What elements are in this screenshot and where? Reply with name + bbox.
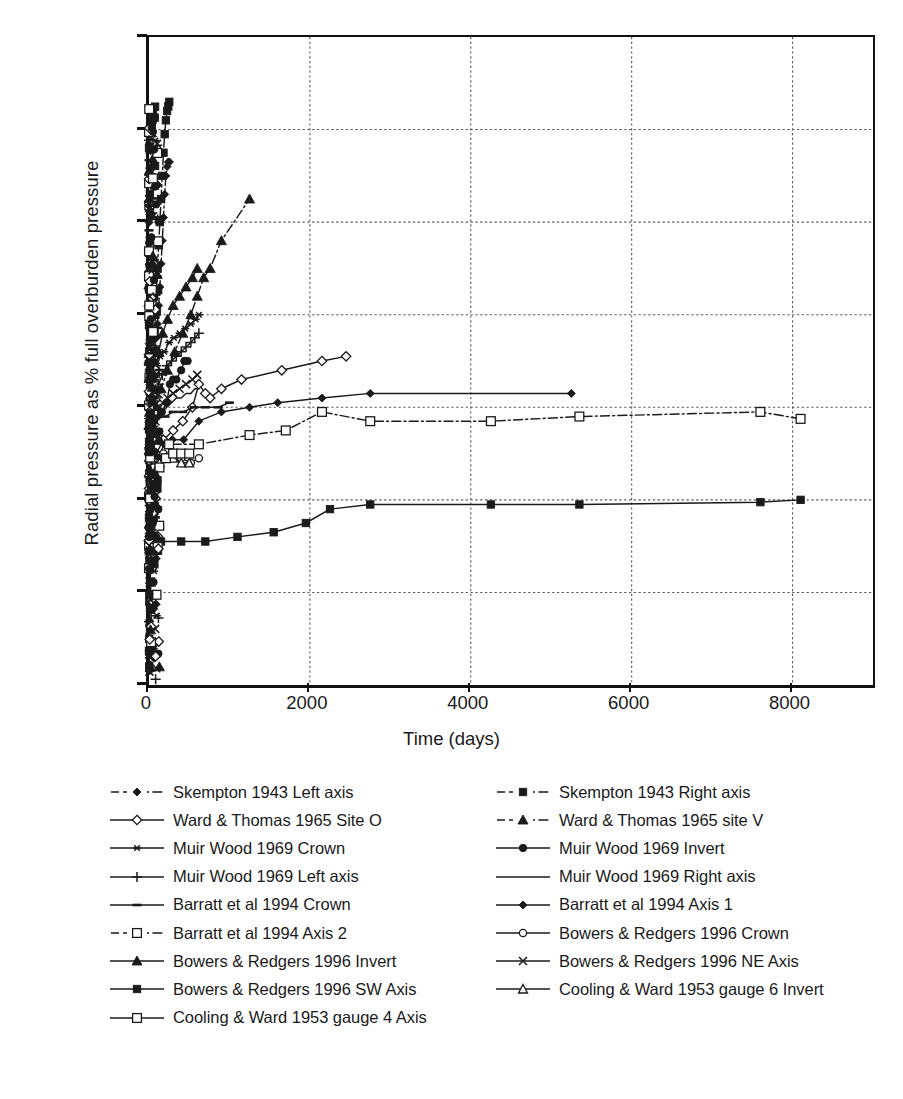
x-axis-tick-label: 0: [141, 692, 151, 714]
legend-item[interactable]: Barratt et al 1994 Crown: [108, 891, 427, 919]
legend-marker-swatch: [108, 979, 166, 999]
legend-item-label: Bowers & Redgers 1996 Crown: [559, 924, 789, 943]
legend-item[interactable]: Barratt et al 1994 Axis 2: [108, 919, 427, 947]
data-series: [147, 389, 575, 499]
legend-key-filled-circle-icon: [494, 838, 552, 858]
legend-marker-swatch: [494, 979, 552, 999]
legend-item[interactable]: Barratt et al 1994 Axis 1: [494, 891, 824, 919]
legend-key-filled-triangle-icon: [108, 951, 166, 971]
legend-marker-swatch: [494, 810, 552, 830]
legend-marker-swatch: [108, 1008, 166, 1028]
legend-item[interactable]: Ward & Thomas 1965 Site O: [108, 806, 427, 834]
legend-item-label: Barratt et al 1994 Crown: [173, 895, 351, 914]
legend-key-open-circle-icon: [494, 923, 552, 943]
legend-marker-swatch: [108, 867, 166, 887]
legend-item-label: Bowers & Redgers 1996 NE Axis: [559, 952, 799, 971]
legend-key-open-triangle-icon: [494, 979, 552, 999]
legend-item-label: Cooling & Ward 1953 gauge 6 Invert: [559, 980, 824, 999]
legend-key-short-dash-icon: [108, 895, 166, 915]
legend-marker-swatch: [108, 810, 166, 830]
legend-key-filled-triangle-icon: [494, 810, 552, 830]
legend-item[interactable]: Skempton 1943 Right axis: [494, 778, 824, 806]
legend-item-label: Muir Wood 1969 Right axis: [559, 867, 756, 886]
legend-item[interactable]: Muir Wood 1969 Crown: [108, 834, 427, 862]
data-series-layer: [149, 37, 873, 685]
legend-marker-swatch: [108, 838, 166, 858]
legend-column-right: Skempton 1943 Right axisWard & Thomas 19…: [494, 778, 824, 1004]
legend-item-label: Cooling & Ward 1953 gauge 4 Axis: [173, 1008, 427, 1027]
legend-marker-swatch: [494, 951, 552, 971]
legend-key-asterisk-icon: [108, 838, 166, 858]
legend-item[interactable]: Muir Wood 1969 Right axis: [494, 863, 824, 891]
legend-marker-swatch: [108, 782, 166, 802]
x-axis-tick-label: 2000: [286, 692, 327, 714]
legend-marker-swatch: [494, 782, 552, 802]
radial-pressure-chart: Radial pressure as % full overburden pre…: [0, 0, 903, 1099]
x-axis-tick-label: 8000: [769, 692, 810, 714]
legend-marker-swatch: [494, 923, 552, 943]
x-axis-title: Time (days): [0, 728, 903, 750]
legend-item[interactable]: Muir Wood 1969 Invert: [494, 834, 824, 862]
legend-item[interactable]: Bowers & Redgers 1996 Crown: [494, 919, 824, 947]
data-series: [146, 496, 804, 545]
legend-marker-swatch: [108, 923, 166, 943]
legend-item-label: Ward & Thomas 1965 Site O: [173, 811, 382, 830]
legend-item[interactable]: Bowers & Redgers 1996 NE Axis: [494, 947, 824, 975]
legend-item[interactable]: Muir Wood 1969 Left axis: [108, 863, 427, 891]
legend-item[interactable]: Bowers & Redgers 1996 Invert: [108, 947, 427, 975]
legend-item-label: Ward & Thomas 1965 site V: [559, 811, 763, 830]
legend-marker-swatch: [108, 895, 166, 915]
legend-item-label: Muir Wood 1969 Crown: [173, 839, 345, 858]
legend-marker-swatch: [108, 951, 166, 971]
legend-item-label: Muir Wood 1969 Invert: [559, 839, 725, 858]
legend-marker-swatch: [494, 838, 552, 858]
legend-item-label: Barratt et al 1994 Axis 2: [173, 924, 347, 943]
legend-key-filled-diamond-icon: [494, 895, 552, 915]
legend-key-filled-square-icon: [108, 979, 166, 999]
legend-key-cross-icon: [494, 951, 552, 971]
legend-column-left: Skempton 1943 Left axisWard & Thomas 196…: [108, 778, 427, 1032]
legend-item-label: Barratt et al 1994 Axis 1: [559, 895, 733, 914]
legend-item[interactable]: Cooling & Ward 1953 gauge 6 Invert: [494, 975, 824, 1003]
legend-item[interactable]: Bowers & Redgers 1996 SW Axis: [108, 975, 427, 1003]
legend-item-label: Bowers & Redgers 1996 SW Axis: [173, 980, 416, 999]
legend-item-label: Bowers & Redgers 1996 Invert: [173, 952, 396, 971]
legend-item[interactable]: Cooling & Ward 1953 gauge 4 Axis: [108, 1004, 427, 1032]
legend-item[interactable]: Ward & Thomas 1965 site V: [494, 806, 824, 834]
legend-item-label: Muir Wood 1969 Left axis: [173, 867, 359, 886]
legend-marker-swatch: [494, 867, 552, 887]
legend-item-label: Skempton 1943 Left axis: [173, 783, 353, 802]
legend-key-open-diamond-icon: [108, 810, 166, 830]
legend-marker-swatch: [494, 895, 552, 915]
legend-item[interactable]: Skempton 1943 Left axis: [108, 778, 427, 806]
x-axis-tick-label: 4000: [447, 692, 488, 714]
legend-key-plus-icon: [108, 867, 166, 887]
legend-key-none-icon: [494, 867, 552, 887]
legend-key-filled-diamond-icon: [108, 782, 166, 802]
y-axis-title: Radial pressure as % full overburden pre…: [81, 33, 103, 673]
legend-key-open-square-icon: [108, 1008, 166, 1028]
plot-area: [146, 35, 875, 688]
legend-item-label: Skempton 1943 Right axis: [559, 783, 750, 802]
legend-key-open-square-icon: [108, 923, 166, 943]
x-axis-tick-label: 6000: [608, 692, 649, 714]
legend-key-filled-square-icon: [494, 782, 552, 802]
data-series: [151, 408, 805, 449]
